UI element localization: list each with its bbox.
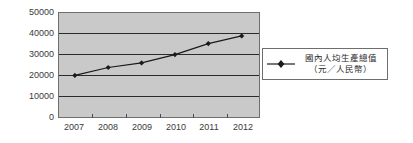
plot-area bbox=[58, 12, 260, 118]
series-data-point bbox=[206, 41, 211, 46]
chart-legend: 國內人均生產總值 （元／人民幣） bbox=[262, 48, 388, 80]
diamond-line-marker-icon bbox=[266, 57, 296, 71]
legend-marker-svg bbox=[266, 57, 296, 71]
legend-label-line1: 國內人均生產總值 bbox=[305, 53, 377, 63]
x-tick-label: 2007 bbox=[64, 122, 84, 132]
series-data-point bbox=[139, 60, 144, 65]
series-data-point bbox=[239, 33, 244, 38]
y-tick-label: 20000 bbox=[8, 71, 54, 80]
series-data-point bbox=[172, 52, 177, 57]
x-tick-label: 2008 bbox=[98, 122, 118, 132]
y-tick-label: 10000 bbox=[8, 92, 54, 101]
series-markers bbox=[72, 33, 244, 78]
y-tick-label: 0 bbox=[8, 113, 54, 122]
data-series-gdp-per-capita bbox=[59, 13, 259, 117]
y-axis-tick-labels: 50000 40000 30000 20000 10000 0 bbox=[8, 0, 54, 143]
legend-label-line2: （元／人民幣） bbox=[296, 64, 385, 75]
y-tick-label: 40000 bbox=[8, 29, 54, 38]
y-tick-label: 30000 bbox=[8, 50, 54, 59]
y-tick-label: 50000 bbox=[8, 8, 54, 17]
x-tick-label: 2009 bbox=[132, 122, 152, 132]
chart-figure: 50000 40000 30000 20000 10000 0 2007 200… bbox=[0, 0, 413, 143]
series-data-point bbox=[72, 73, 77, 78]
legend-entry-label: 國內人均生產總值 （元／人民幣） bbox=[296, 53, 387, 75]
x-tick-label: 2012 bbox=[233, 122, 253, 132]
x-tick-label: 2011 bbox=[199, 122, 218, 132]
x-tick-label: 2010 bbox=[166, 122, 186, 132]
x-axis-tick-labels: 2007 2008 2009 2010 2011 2012 bbox=[58, 122, 260, 136]
series-line bbox=[75, 36, 242, 76]
series-data-point bbox=[106, 65, 111, 70]
